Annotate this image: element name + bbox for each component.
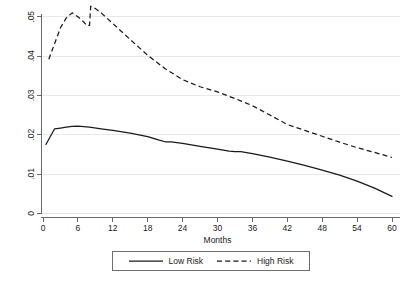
x-axis: 0 6 12 18 24 30 36 42 48 54 60 Months — [41, 218, 400, 246]
legend-label-low-risk: Low Risk — [169, 256, 203, 266]
gridlines — [41, 17, 400, 214]
data-series — [46, 6, 392, 196]
legend-entry-low-risk: Low Risk — [129, 256, 203, 266]
y-tick-label-0: 0 — [26, 211, 36, 216]
line-chart-plot: .05 .04 .03 .02 .01 0 0 6 12 18 24 — [0, 0, 411, 284]
y-tick-label-0.02: .02 — [26, 129, 36, 141]
x-tick-label-54: 54 — [352, 223, 362, 233]
y-axis: .05 .04 .03 .02 .01 0 — [26, 11, 42, 216]
x-tick-label-24: 24 — [178, 223, 188, 233]
y-tick-label-0.01: .01 — [26, 168, 36, 180]
y-tick-label-0.05: .05 — [26, 11, 36, 23]
legend-label-high-risk: High Risk — [257, 256, 293, 266]
y-tick-label-0.04: .04 — [26, 50, 36, 62]
x-tick-label-30: 30 — [213, 223, 223, 233]
legend-entry-high-risk: High Risk — [217, 256, 293, 266]
x-tick-label-36: 36 — [248, 223, 258, 233]
chart-figure: .05 .04 .03 .02 .01 0 0 6 12 18 24 — [0, 0, 411, 284]
chart-legend: Low Risk High Risk — [112, 251, 310, 271]
legend-key-solid-line-icon — [129, 257, 163, 265]
x-tick-label-6: 6 — [76, 223, 81, 233]
x-tick-label-60: 60 — [387, 223, 397, 233]
x-tick-label-42: 42 — [283, 223, 293, 233]
x-tick-label-48: 48 — [317, 223, 327, 233]
x-tick-label-18: 18 — [143, 223, 153, 233]
y-tick-label-0.03: .03 — [26, 89, 36, 101]
x-tick-label-0: 0 — [41, 223, 46, 233]
x-tick-label-12: 12 — [108, 223, 118, 233]
series-line-low-risk — [46, 126, 392, 196]
x-axis-title: Months — [204, 235, 232, 245]
legend-key-dashed-line-icon — [217, 257, 251, 265]
